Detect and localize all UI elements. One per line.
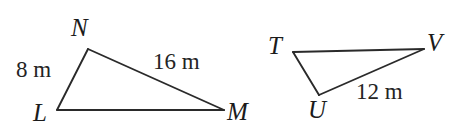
vertex-label-N: N (71, 15, 88, 40)
segment-LN (57, 49, 88, 110)
measure-label-NM: 16 m (153, 50, 200, 73)
measure-label-UV: 12 m (356, 80, 403, 103)
vertex-label-U: U (308, 97, 326, 122)
vertex-label-V: V (427, 30, 442, 55)
geometry-figure: N L M T V U 8 m 16 m 12 m (0, 0, 459, 133)
segment-TV (293, 49, 424, 52)
measure-label-LN: 8 m (16, 58, 51, 81)
vertex-label-T: T (268, 33, 282, 58)
segment-TU (293, 52, 319, 95)
vertex-label-M: M (227, 99, 248, 124)
vertex-label-L: L (33, 100, 47, 125)
